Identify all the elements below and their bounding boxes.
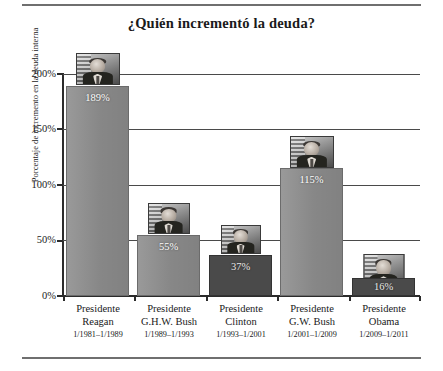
bar-value-obama: 16% <box>353 281 414 292</box>
bar-reagan[interactable]: 189% <box>66 86 129 296</box>
x-label-gw-bush-line2: G.W. Bush <box>272 316 352 329</box>
bar-group-reagan[interactable]: 189% <box>66 74 129 296</box>
bar-value-clinton: 37% <box>210 261 271 272</box>
bar-gw-bush[interactable]: 115% <box>280 168 343 296</box>
x-label-clinton-line1: Presidente <box>201 303 281 316</box>
x-tick-mark-3 <box>277 296 279 301</box>
x-label-gw-bush-line1: Presidente <box>272 303 352 316</box>
bar-value-gw-bush: 115% <box>281 174 342 185</box>
x-label-obama: Presidente Obama 1/2009–1/2011 <box>344 303 424 341</box>
x-label-reagan-line1: Presidente <box>59 303 137 316</box>
bar-value-ghw-bush: 55% <box>138 241 199 252</box>
x-label-ghw-bush-dates: 1/1989–1/1993 <box>129 329 209 341</box>
x-label-clinton: Presidente Clinton 1/1993–1/2001 <box>201 303 281 341</box>
x-label-obama-line1: Presidente <box>344 303 424 316</box>
x-label-clinton-line2: Clinton <box>201 316 281 329</box>
x-tick-mark-0 <box>63 296 65 301</box>
bar-obama[interactable]: 16% <box>352 278 415 296</box>
y-tick-label-50: 50% <box>4 234 56 245</box>
y-axis-tick-labels: 200% 150% 100% 50% 0% <box>0 0 56 371</box>
reagan-portrait <box>76 53 120 85</box>
clinton-portrait <box>221 225 261 254</box>
bar-group-ghw-bush[interactable]: 55% <box>137 74 200 296</box>
bottom-divider-rule <box>22 357 421 359</box>
x-label-reagan-dates: 1/1981–1/1989 <box>59 329 137 341</box>
x-label-gw-bush-dates: 1/2001–1/2009 <box>272 329 352 341</box>
y-axis-title: Porcentaje de incremento en la deuda int… <box>30 0 40 213</box>
x-label-ghw-bush-line2: G.H.W. Bush <box>129 316 209 329</box>
x-label-reagan-line2: Reagan <box>59 316 137 329</box>
y-tick-label-0: 0% <box>4 290 56 301</box>
x-label-clinton-dates: 1/1993–1/2001 <box>201 329 281 341</box>
x-tick-mark-2 <box>206 296 208 301</box>
ghw-bush-portrait <box>148 203 190 234</box>
x-label-reagan: Presidente Reagan 1/1981–1/1989 <box>59 303 137 341</box>
gw-bush-portrait <box>290 136 334 168</box>
x-axis-category-labels: Presidente Reagan 1/1981–1/1989 Presiden… <box>63 303 420 355</box>
bar-ghw-bush[interactable]: 55% <box>137 235 200 296</box>
bar-group-clinton[interactable]: 37% <box>209 74 272 296</box>
x-tick-mark-1 <box>134 296 136 301</box>
x-label-ghw-bush-line1: Presidente <box>129 303 209 316</box>
chart-title: ¿Quién incrementó la deuda? <box>0 15 443 32</box>
bar-value-reagan: 189% <box>67 92 128 103</box>
bar-group-gw-bush[interactable]: 115% <box>280 74 343 296</box>
x-label-ghw-bush: Presidente G.H.W. Bush 1/1989–1/1993 <box>129 303 209 341</box>
x-label-obama-dates: 1/2009–1/2011 <box>344 329 424 341</box>
bar-group-obama[interactable]: 16% <box>352 74 415 296</box>
x-label-obama-line2: Obama <box>344 316 424 329</box>
top-divider-rule <box>22 4 421 6</box>
plot-area: 189% 55% 37% 115% <box>63 74 420 296</box>
bar-clinton[interactable]: 37% <box>209 255 272 296</box>
x-tick-mark-5 <box>419 296 421 301</box>
x-tick-mark-4 <box>349 296 351 301</box>
x-label-gw-bush: Presidente G.W. Bush 1/2001–1/2009 <box>272 303 352 341</box>
